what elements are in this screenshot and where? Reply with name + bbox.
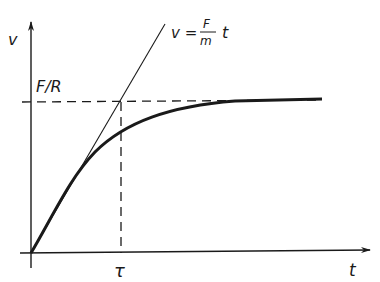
- tangent-equation-denominator: m: [200, 34, 212, 48]
- velocity-time-diagram: v t F/R τ v = F m t: [0, 0, 380, 282]
- x-axis-label: t: [349, 260, 357, 280]
- tangent-equation-rhs: t: [222, 23, 229, 42]
- velocity-curve: [31, 99, 322, 253]
- tangent-equation-numerator: F: [203, 17, 211, 31]
- x-axis: [20, 250, 370, 253]
- terminal-velocity-label: F/R: [36, 77, 62, 96]
- time-constant-label: τ: [114, 260, 125, 281]
- tangent-equation: v = F m t: [171, 17, 229, 48]
- y-axis-label: v: [8, 30, 18, 49]
- tangent-equation-lhs: v =: [171, 24, 197, 42]
